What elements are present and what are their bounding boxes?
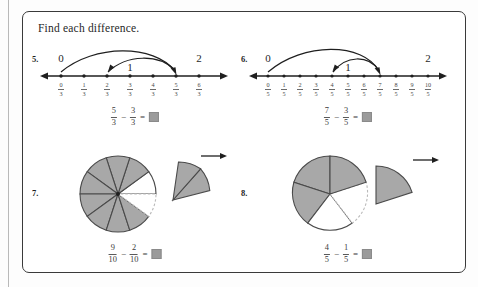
- answer-box[interactable]: [362, 112, 372, 122]
- tick-label-9: 95: [409, 82, 415, 97]
- tick-label-1: 15: [281, 82, 287, 97]
- tick-label-4: 45: [329, 82, 335, 97]
- tick-label-4: 43: [150, 82, 156, 97]
- problem-5-equation: 5 3 − 3 3 =: [111, 107, 159, 127]
- tick-label-5: 53: [173, 82, 179, 97]
- tick-label-0: 03: [58, 82, 64, 97]
- arrow-icon: [413, 157, 439, 163]
- minus-sign: −: [333, 112, 340, 122]
- problem-7-equation: 9 10 − 2 10 =: [109, 244, 162, 264]
- tick-label-2: 25: [297, 82, 303, 97]
- tick-label-8: 85: [393, 82, 399, 97]
- problem-7-circle-model: [61, 142, 231, 242]
- minus-sign: −: [120, 249, 127, 259]
- equals-sign: =: [352, 112, 359, 122]
- jump-arc-small: [108, 58, 175, 72]
- tick-label-0: 05: [265, 82, 271, 97]
- jump-arc-large: [268, 49, 381, 75]
- minuend-fraction: 5 3: [111, 107, 117, 127]
- jump-arc-large: [61, 51, 177, 75]
- whole-label-0: 0: [265, 52, 271, 64]
- minuend-fraction: 9 10: [109, 244, 117, 264]
- minuend-fraction: 7 5: [324, 107, 330, 127]
- minus-sign: −: [333, 249, 340, 259]
- arrow-icon: [201, 153, 227, 159]
- subtrahend-fraction: 3 3: [130, 107, 136, 127]
- whole-label-2: 2: [425, 52, 431, 64]
- equals-sign: =: [141, 249, 148, 259]
- tick-label-5: 55: [345, 82, 351, 97]
- problem-6-number: 6.: [241, 54, 247, 64]
- whole-label-1: 1: [127, 61, 133, 73]
- tick-label-3: 33: [127, 82, 133, 97]
- answer-box[interactable]: [149, 112, 159, 122]
- minuend-fraction: 4 5: [324, 244, 330, 264]
- answer-box[interactable]: [362, 249, 372, 259]
- tick-label-6: 63: [196, 82, 202, 97]
- problem-5-number: 5.: [32, 54, 38, 64]
- problem-5-number-line: 0 1 2 03 13 23 33 43: [39, 46, 229, 86]
- subtrahend-fraction: 2 10: [130, 244, 138, 264]
- whole-label-0: 0: [58, 52, 64, 64]
- equals-sign: =: [139, 112, 146, 122]
- whole-label-1: 1: [345, 61, 351, 73]
- circle-center-dot: [116, 192, 120, 196]
- equals-sign: =: [352, 249, 359, 259]
- tick-label-6: 65: [361, 82, 367, 97]
- removed-slices: [173, 162, 210, 200]
- jump-arc-small: [333, 59, 379, 72]
- answer-box[interactable]: [151, 249, 161, 259]
- tick-label-10: 105: [425, 82, 431, 97]
- circle-fifths: [292, 156, 367, 230]
- tick-label-2: 23: [104, 82, 110, 97]
- problem-8-equation: 4 5 − 1 5 =: [324, 244, 372, 264]
- problem-7-number: 7.: [32, 188, 38, 198]
- tick-label-1: 13: [81, 82, 87, 97]
- removed-slice: [376, 166, 412, 204]
- minus-sign: −: [120, 112, 127, 122]
- worksheet-page: Find each difference. 5.: [0, 0, 478, 287]
- whole-label-2: 2: [196, 52, 202, 64]
- problem-6-equation: 7 5 − 3 5 =: [324, 107, 372, 127]
- page-title: Find each difference.: [38, 22, 139, 34]
- worksheet-border-box: Find each difference. 5.: [22, 11, 466, 273]
- page-spine-rule: [8, 0, 9, 287]
- tick-label-3: 35: [313, 82, 319, 97]
- subtrahend-fraction: 1 5: [343, 244, 349, 264]
- problem-8-circle-model: [273, 142, 443, 242]
- subtrahend-fraction: 3 5: [343, 107, 349, 127]
- problem-8-number: 8.: [241, 188, 247, 198]
- problem-6-number-line: 0 1 2 05 15 25 35 45 55: [248, 46, 448, 86]
- tick-label-7: 75: [377, 82, 383, 97]
